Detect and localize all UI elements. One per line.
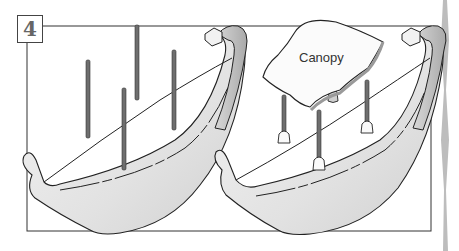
left-hull — [23, 30, 245, 234]
post — [365, 80, 369, 125]
step-number-badge: 4 — [17, 15, 43, 43]
post — [122, 88, 126, 170]
post — [172, 50, 176, 130]
left-boat — [23, 25, 247, 234]
canopy-label: Canopy — [299, 50, 344, 65]
post — [282, 95, 286, 135]
post — [317, 110, 321, 160]
post — [86, 60, 90, 138]
illustration — [0, 0, 459, 251]
post — [135, 25, 139, 100]
